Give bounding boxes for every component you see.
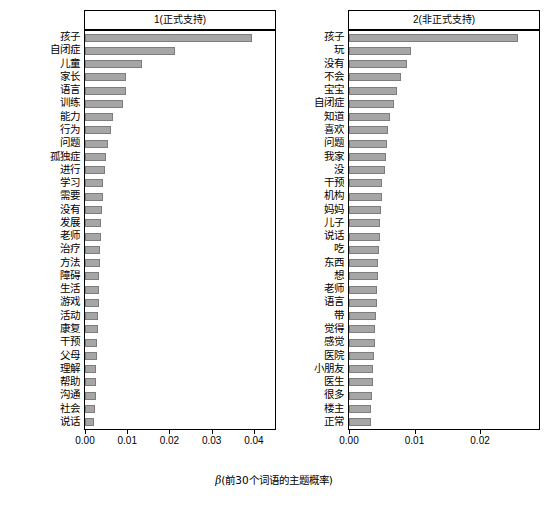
bar <box>85 339 97 347</box>
category-label: 东西 <box>324 257 344 268</box>
bar <box>349 73 401 81</box>
bar <box>85 405 95 413</box>
category-label: 小朋友 <box>314 363 344 374</box>
bar <box>349 418 371 426</box>
bar <box>349 259 378 267</box>
bar <box>349 312 376 320</box>
x-tick <box>169 430 170 434</box>
x-tick <box>85 430 86 434</box>
category-label: 语言 <box>60 84 80 95</box>
category-label: 社会 <box>60 403 80 414</box>
x-tick-label: 0.01 <box>117 435 136 446</box>
bar-row <box>349 32 539 45</box>
bar-row <box>85 416 275 429</box>
bar-row <box>349 164 539 177</box>
bar-row <box>85 85 275 98</box>
category-label: 感觉 <box>324 336 344 347</box>
bar-row <box>85 32 275 45</box>
bar-row <box>349 403 539 416</box>
bar <box>349 179 382 187</box>
bar <box>349 193 382 201</box>
category-label: 活动 <box>60 310 80 321</box>
bar-row <box>349 45 539 58</box>
category-label: 医生 <box>324 376 344 387</box>
category-label: 觉得 <box>324 323 344 334</box>
category-label: 干预 <box>324 177 344 188</box>
category-label: 机构 <box>324 190 344 201</box>
bar <box>349 140 387 148</box>
bar-row <box>85 350 275 363</box>
bar-row <box>85 390 275 403</box>
bar <box>85 126 111 134</box>
bar-row <box>85 164 275 177</box>
category-label: 训练 <box>60 97 80 108</box>
bar-row <box>85 71 275 84</box>
bar <box>349 378 373 386</box>
x-tick <box>254 430 255 434</box>
x-tick-label: 0.00 <box>75 435 94 446</box>
x-tick-label: 0.04 <box>244 435 263 446</box>
bar-row <box>85 403 275 416</box>
panel-informal-support: 2(非正式支持) 孩子玩没有不会宝宝自闭症知道喜欢问题我家没干预机构妈妈儿子说话… <box>292 10 540 452</box>
x-tick <box>415 430 416 434</box>
category-label: 老师 <box>324 283 344 294</box>
bar <box>85 206 102 214</box>
category-label: 问题 <box>324 137 344 148</box>
x-tick-label: 0.02 <box>470 435 489 446</box>
category-label: 带 <box>334 310 344 321</box>
bar-row <box>349 284 539 297</box>
category-label: 孤独症 <box>50 151 80 162</box>
bar-row <box>85 217 275 230</box>
category-label: 自闭症 <box>50 44 80 55</box>
bar <box>85 272 99 280</box>
bar <box>349 60 407 68</box>
category-label: 父母 <box>60 350 80 361</box>
bar <box>349 233 380 241</box>
x-tick-label: 0.00 <box>339 435 358 446</box>
category-label: 需要 <box>60 190 80 201</box>
bar-row <box>349 138 539 151</box>
bar <box>85 246 100 254</box>
bar-row <box>349 71 539 84</box>
category-label: 能力 <box>60 111 80 122</box>
bar <box>349 153 386 161</box>
bar <box>85 153 106 161</box>
bar <box>85 312 98 320</box>
category-label: 很多 <box>324 389 344 400</box>
panel-title-2: 2(非正式支持) <box>348 10 540 30</box>
category-label: 语言 <box>324 296 344 307</box>
bar-row <box>85 45 275 58</box>
bar-row <box>349 297 539 310</box>
x-tick-label: 0.01 <box>405 435 424 446</box>
bar <box>85 166 105 174</box>
x-axis-label: β(前30个词语的主题概率) <box>0 472 548 487</box>
bar-row <box>349 217 539 230</box>
x-tick <box>480 430 481 434</box>
bar <box>85 73 126 81</box>
bar <box>349 126 388 134</box>
bar-row <box>349 376 539 389</box>
panel-formal-support: 1(正式支持) 孩子自闭症儿童家长语言训练能力行为问题孤独症进行学习需要没有发展… <box>28 10 276 452</box>
category-label: 我家 <box>324 151 344 162</box>
category-label: 妈妈 <box>324 204 344 215</box>
bar <box>349 392 372 400</box>
category-label: 喜欢 <box>324 124 344 135</box>
bar <box>349 113 390 121</box>
bar <box>349 272 378 280</box>
bar-row <box>349 323 539 336</box>
x-tick <box>212 430 213 434</box>
x-tick <box>127 430 128 434</box>
bar-row <box>85 124 275 137</box>
bar <box>349 206 381 214</box>
bar-row <box>85 337 275 350</box>
bar <box>349 365 373 373</box>
bar <box>349 166 385 174</box>
bar <box>85 259 100 267</box>
bar-row <box>349 177 539 190</box>
bar <box>85 34 252 42</box>
bar <box>349 87 397 95</box>
category-label: 说话 <box>324 230 344 241</box>
bar <box>349 47 411 55</box>
x-tick-label: 0.03 <box>202 435 221 446</box>
bar-row <box>85 376 275 389</box>
